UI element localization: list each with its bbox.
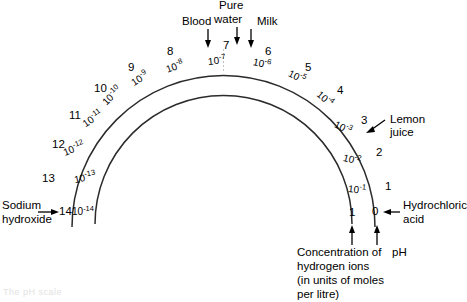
pure-water-label-line2: water [214, 13, 242, 27]
inner-arc-concentration [95, 96, 352, 225]
ph-value-3: 3 [361, 114, 367, 128]
pure-water-label-line1: Pure [219, 0, 243, 13]
ph-value-9: 9 [128, 61, 134, 75]
milk-arrow [248, 29, 254, 48]
ph-value-8: 8 [167, 45, 173, 59]
concentration-caption-line3: (in units of moles [297, 273, 384, 288]
concentration-10e-7: 10-7 [207, 54, 226, 68]
blood-arrow [205, 29, 211, 48]
pure-water-arrow [234, 27, 240, 45]
ph-value-1: 1 [385, 180, 391, 194]
concentration-caption-line4: per litre) [297, 287, 339, 302]
lemon-juice-arrow [366, 120, 385, 133]
ph-value-4: 4 [337, 84, 343, 98]
blood-label: Blood [182, 15, 211, 29]
ph-value-11: 11 [69, 109, 81, 123]
hydrochloric-acid-label-line2: acid [403, 213, 424, 227]
milk-label: Milk [257, 15, 277, 29]
lemon-juice-label-line1: Lemon [390, 113, 425, 127]
sodium-hydroxide-label-line1: Sodium [2, 199, 41, 213]
ph-value-14: 14 [59, 205, 72, 219]
concentration-10e-14: 10-14 [72, 206, 94, 218]
concentration-10e-1: 10-1 [347, 183, 366, 197]
concentration-1: 1 [349, 206, 355, 220]
cropped-footer-text: The pH scale [3, 287, 62, 298]
ph-value-7: 7 [223, 39, 229, 53]
concentration-caption-line1: Concentration of [297, 245, 381, 260]
ph-value-13: 13 [42, 172, 55, 186]
sodium-hydroxide-label-line2: hydroxide [2, 213, 52, 227]
hydrochloric-acid-label-line1: Hydrochloric [403, 199, 467, 213]
concentration-caption-arrow [349, 225, 355, 245]
concentration-caption-line2: hydrogen ions [297, 259, 369, 274]
ph-value-2: 2 [376, 146, 382, 160]
lemon-juice-label-line2: juice [390, 126, 414, 140]
hydrochloric-acid-arrow [383, 209, 400, 215]
ph-value-0: 0 [372, 205, 378, 219]
ph-caption: pH [392, 245, 407, 260]
ph-caption-arrow [374, 225, 380, 245]
